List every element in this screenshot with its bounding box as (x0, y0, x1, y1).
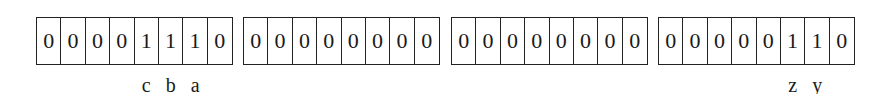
bit-label-y: y (805, 74, 830, 94)
bit-cell: 0 (598, 18, 622, 64)
bit-cell: 0 (830, 18, 854, 64)
bit-cell: 0 (623, 18, 647, 64)
bit-cell: 1 (781, 18, 805, 64)
bit-cell: 0 (732, 18, 756, 64)
bit-cell: 1 (159, 18, 183, 64)
bit-cell: 0 (342, 18, 366, 64)
byte-2: 0 0 0 0 0 0 0 0 (451, 17, 648, 65)
bit-cell: 0 (61, 18, 85, 64)
byte-3: 0 0 0 0 0 1 1 0 (658, 17, 855, 65)
bit-label-a: a (183, 74, 208, 94)
bit-cell: 0 (293, 18, 317, 64)
bit-cell: 1 (805, 18, 829, 64)
bit-cell: 0 (574, 18, 598, 64)
bit-cell: 0 (208, 18, 232, 64)
bit-cell: 0 (452, 18, 476, 64)
bit-label-z: z (781, 74, 806, 94)
bit-cell: 0 (390, 18, 414, 64)
bit-cell: 0 (525, 18, 549, 64)
bit-cell: 0 (268, 18, 292, 64)
bit-cell: 0 (708, 18, 732, 64)
bit-cell: 0 (659, 18, 683, 64)
bit-cell: 0 (37, 18, 61, 64)
bit-cell: 0 (86, 18, 110, 64)
bit-cell: 0 (757, 18, 781, 64)
bit-cell: 1 (135, 18, 159, 64)
bit-label-b: b (159, 74, 184, 94)
bit-cell: 0 (317, 18, 341, 64)
bit-label-c: c (134, 74, 159, 94)
byte-0: 0 0 0 0 1 1 1 0 (36, 17, 233, 65)
bit-cell: 0 (415, 18, 439, 64)
bit-cell: 0 (501, 18, 525, 64)
bit-cell: 0 (550, 18, 574, 64)
byte-1: 0 0 0 0 0 0 0 0 (243, 17, 440, 65)
bit-cell: 0 (683, 18, 707, 64)
bit-cell: 0 (244, 18, 268, 64)
bit-cell: 1 (183, 18, 207, 64)
bit-cell: 0 (110, 18, 134, 64)
bit-cell: 0 (476, 18, 500, 64)
bit-cell: 0 (366, 18, 390, 64)
